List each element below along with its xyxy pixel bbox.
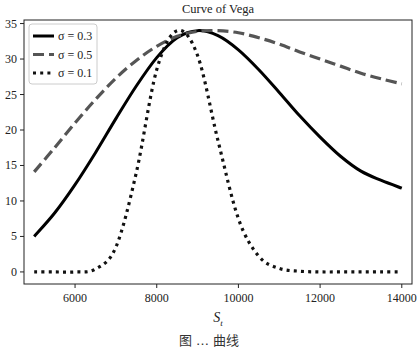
legend-label: σ = 0.5 [58, 48, 92, 62]
y-tick-label: 15 [5, 158, 17, 172]
x-axis-label: St [213, 310, 223, 328]
x-tick-label: 12000 [305, 291, 335, 305]
x-tick-label: 14000 [387, 291, 417, 305]
x-tick-label: 8000 [145, 291, 169, 305]
y-tick-label: 35 [5, 17, 17, 31]
x-tick-label: 6000 [63, 291, 87, 305]
chart-title: Curve of Vega [182, 2, 254, 16]
y-tick-label: 25 [5, 88, 17, 102]
y-tick-label: 30 [5, 52, 17, 66]
figure-caption: 图 … 曲线 [0, 330, 418, 349]
x-axis: 60008000100001200014000 [63, 284, 417, 305]
legend-label: σ = 0.3 [58, 29, 92, 43]
legend: σ = 0.3σ = 0.5σ = 0.1 [29, 24, 97, 84]
y-axis: 05101520253035 [5, 17, 24, 279]
y-tick-label: 5 [11, 229, 17, 243]
legend-label: σ = 0.1 [58, 66, 92, 80]
y-tick-label: 20 [5, 123, 17, 137]
x-tick-label: 10000 [223, 291, 253, 305]
y-tick-label: 10 [5, 194, 17, 208]
y-tick-label: 0 [11, 265, 17, 279]
